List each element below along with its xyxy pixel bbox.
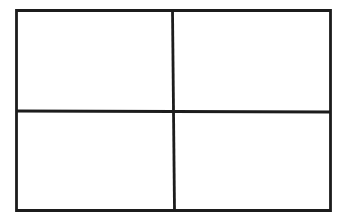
grid-cell-r1-c0: [17, 112, 174, 211]
diagram-canvas: [0, 0, 346, 223]
grid-cell-r0-c0: [17, 11, 174, 112]
horizontal-divider: [17, 111, 331, 112]
grid-cell-r1-c1: [174, 112, 331, 211]
grid-cell-r0-c1: [174, 11, 331, 112]
grid-diagram: [0, 0, 346, 223]
